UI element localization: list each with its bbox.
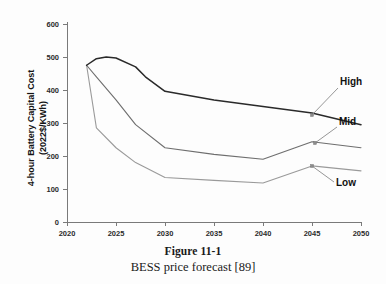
- figure-page: 4-hour Battery Capital Cost (2022$/KWh) …: [0, 0, 386, 284]
- series-line-mid: [87, 65, 361, 159]
- series-line-low: [87, 65, 361, 183]
- x-axis-tick-labels: 2020 2025 2030 2035 2040 2045 2050: [59, 229, 370, 238]
- series-label-mid: Mid: [339, 116, 356, 127]
- y-tick-label-100: 100: [46, 185, 59, 194]
- leader-line-mid: [315, 127, 337, 143]
- figure-caption-text: BESS price forecast [89]: [0, 259, 386, 275]
- x-tick-label-2025: 2025: [108, 229, 125, 238]
- line-chart: 4-hour Battery Capital Cost (2022$/KWh) …: [0, 0, 386, 246]
- leader-line-high: [312, 88, 338, 115]
- x-axis-ticks: [67, 222, 361, 226]
- y-tick-label-600: 600: [46, 20, 59, 29]
- y-tick-label-500: 500: [46, 53, 59, 62]
- figure-caption-number: Figure 11-1: [0, 244, 386, 259]
- x-tick-label-2030: 2030: [157, 229, 174, 238]
- y-tick-label-200: 200: [46, 152, 59, 161]
- annotation-mid: Mid: [314, 116, 357, 145]
- annotation-high: High: [311, 76, 363, 117]
- chart-figure: 4-hour Battery Capital Cost (2022$/KWh) …: [0, 0, 386, 246]
- series-label-low: Low: [336, 177, 356, 188]
- y-axis-ticks: [63, 24, 67, 222]
- x-tick-label-2050: 2050: [353, 229, 370, 238]
- y-tick-label-300: 300: [46, 119, 59, 128]
- x-tick-label-2020: 2020: [59, 229, 76, 238]
- series-label-high: High: [340, 76, 362, 87]
- figure-caption: Figure 11-1 BESS price forecast [89]: [0, 244, 386, 275]
- x-tick-label-2035: 2035: [206, 229, 223, 238]
- leader-line-low: [312, 166, 334, 182]
- x-tick-label-2040: 2040: [255, 229, 272, 238]
- x-tick-label-2045: 2045: [304, 229, 321, 238]
- y-axis-title-line1: 4-hour Battery Capital Cost: [26, 70, 36, 187]
- y-tick-label-400: 400: [46, 86, 59, 95]
- y-axis-tick-labels: 0 100 200 300 400 500 600: [46, 20, 59, 227]
- y-tick-label-0: 0: [55, 218, 59, 227]
